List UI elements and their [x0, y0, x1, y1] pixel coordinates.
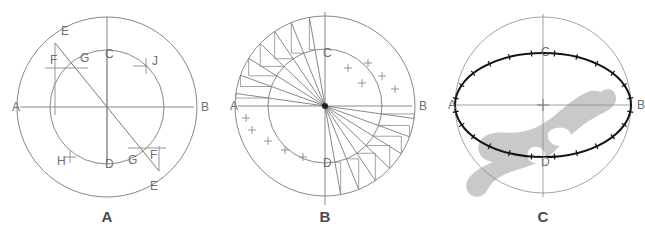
panel-c-label-D: D	[541, 155, 550, 169]
panel-b-label-C: C	[323, 46, 332, 60]
figure-root: A B C D E F G J H G F E A A B C D B	[0, 0, 645, 235]
panel-b-label-A: A	[230, 99, 238, 113]
figure-background	[0, 0, 645, 235]
panel-c-caption: C	[538, 208, 549, 225]
panel-a-label-G-top: G	[80, 51, 89, 65]
panel-a-label-A: A	[12, 100, 20, 114]
panel-a-label-J: J	[152, 54, 158, 68]
panel-a-label-F-bottom: F	[150, 148, 157, 162]
panel-b-label-B: B	[419, 99, 427, 113]
panel-a-label-F-top: F	[50, 53, 57, 67]
panel-a-label-C: C	[105, 47, 114, 61]
panel-b-caption: B	[320, 208, 331, 225]
panel-a-label-G-bottom: G	[128, 153, 137, 167]
panel-a-caption: A	[102, 208, 113, 225]
panel-a-label-E-top: E	[61, 24, 69, 38]
panel-c-label-A: A	[448, 98, 456, 112]
panel-a-label-B: B	[201, 100, 209, 114]
panel-a-label-D: D	[105, 157, 114, 171]
panel-b-label-D: D	[323, 156, 332, 170]
panel-c-label-B: B	[637, 98, 645, 112]
panel-b-center-point	[322, 103, 328, 109]
panel-a-label-H: H	[57, 154, 66, 168]
panel-a-label-E-bottom: E	[150, 179, 158, 193]
panel-c-label-C: C	[541, 45, 550, 59]
